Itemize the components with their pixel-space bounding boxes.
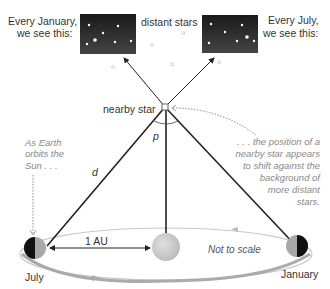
january-label-line1: Every January, bbox=[8, 15, 77, 27]
shift-caption-line2: nearby star appears bbox=[236, 148, 321, 159]
july-label-line2: we see this: bbox=[263, 27, 318, 39]
earth-july bbox=[24, 237, 46, 259]
shift-caption-line5: more distant bbox=[268, 184, 320, 195]
distance-label: d bbox=[92, 166, 98, 178]
january-position-label: January bbox=[281, 268, 318, 280]
nearby-star-label: nearby star bbox=[103, 103, 156, 115]
earth-orbit-caption-line3: Sun . . . bbox=[25, 160, 58, 171]
earth-orbit-caption-line2: orbits the bbox=[25, 148, 64, 159]
january-sky-image bbox=[80, 14, 136, 54]
shift-caption-line1: . . . the position of a bbox=[237, 136, 320, 147]
not-to-scale-label: Not to scale bbox=[208, 244, 261, 255]
distant-stars-label: distant stars bbox=[141, 16, 198, 28]
nearby-star bbox=[162, 104, 168, 110]
july-sky-image bbox=[202, 15, 258, 53]
extension-to-january-sky bbox=[124, 58, 165, 107]
earth-january bbox=[286, 235, 308, 257]
shift-caption-line4: background of bbox=[260, 172, 320, 183]
au-label: 1 AU bbox=[85, 235, 108, 247]
sun bbox=[152, 233, 180, 261]
annotation-line-star bbox=[173, 108, 256, 135]
january-label-line2: we see this: bbox=[17, 27, 72, 39]
parallax-angle-label: p bbox=[153, 130, 159, 142]
sight-line-july bbox=[47, 107, 165, 246]
shift-caption-line3: to shift against the bbox=[243, 160, 320, 171]
shift-caption-line6: stars. bbox=[297, 196, 320, 207]
july-position-label: July bbox=[25, 271, 44, 283]
earth-orbit-caption-line1: As Earth bbox=[25, 137, 61, 148]
july-label-line1: Every July, bbox=[268, 14, 319, 26]
